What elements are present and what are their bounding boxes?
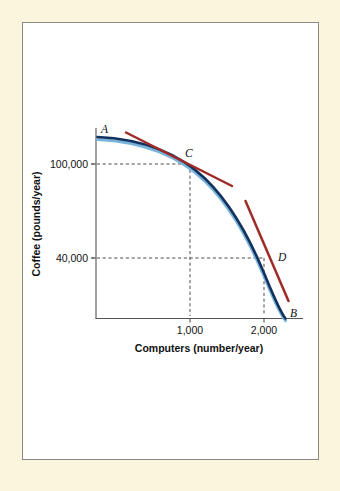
figure-root: A B C D 100,000 40,000 1,000 2,000 Compu… [0, 0, 340, 491]
y-tick-label-40000: 40,000 [56, 252, 88, 264]
y-tick-label-100000: 100,000 [50, 158, 88, 170]
point-label-c: C [185, 147, 193, 159]
point-label-b: B [290, 307, 297, 319]
x-axis-title: Computers (number/year) [135, 342, 263, 354]
guide-lines [91, 164, 264, 316]
production-possibilities-chart: A B C D 100,000 40,000 1,000 2,000 Compu… [0, 0, 340, 491]
point-label-a: A [100, 123, 109, 135]
point-label-d: D [277, 251, 287, 263]
x-tick-label-2000: 2,000 [251, 324, 277, 336]
x-axis-ticks [190, 319, 264, 323]
y-axis-title: Coffee (pounds/year) [30, 171, 42, 276]
x-tick-label-1000: 1,000 [177, 324, 203, 336]
tangent-line-at-c [126, 133, 232, 187]
y-axis-ticks [92, 164, 97, 258]
